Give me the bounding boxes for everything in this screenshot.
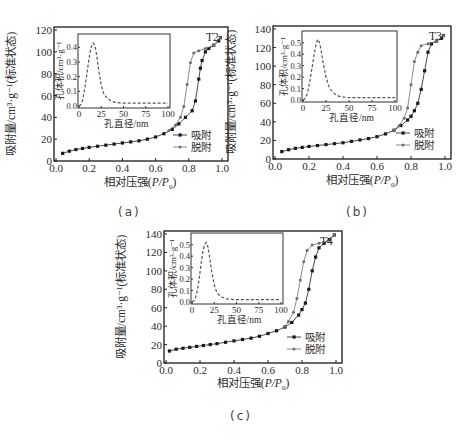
inset-y-tick: 0.3 [179, 263, 190, 273]
inset-y-tick: 0.4 [290, 49, 301, 59]
x-axis-label: 相对压强(P/P0) [326, 173, 399, 189]
y-axis-label: 吸附量/cm³·g⁻¹(标准状态) [4, 32, 18, 157]
inset-y-label: 孔体积/cm³·g⁻¹ [54, 42, 65, 100]
x-tick-label: 0.0 [268, 160, 282, 172]
isotherm-chart-t4: 0204060801001201400.00.20.40.60.81.0吸附量/… [110, 225, 360, 400]
inset-x-label: 孔直径/nm [329, 112, 374, 123]
x-tick-label: 1.0 [438, 160, 452, 172]
x-tick-label: 0.4 [227, 364, 241, 376]
x-tick-label: 0.8 [404, 160, 418, 172]
inset-x-tick: 25 [210, 305, 220, 315]
y-tick-label: 60 [41, 90, 53, 102]
y-tick-label: 20 [260, 134, 272, 146]
chart-panel-t4: 0204060801001201400.00.20.40.60.81.0吸附量/… [110, 225, 360, 400]
desorption-curve [394, 36, 443, 131]
inset-x-tick: 0 [301, 103, 306, 113]
inset-y-tick: 0.1 [66, 86, 77, 96]
inset-y-tick: 0.2 [290, 72, 301, 82]
legend-desorption: 脱附 [414, 139, 435, 151]
inset-y-tick: 0.3 [290, 61, 301, 71]
inset-x-tick: 100 [161, 109, 175, 119]
inset-x-tick: 75 [141, 109, 151, 119]
inset-y-tick: 0.0 [179, 297, 190, 307]
caption-b: (b) [346, 205, 369, 219]
y-axis-label: 吸附量/cm³·g⁻¹(标准状态) [114, 235, 128, 360]
x-tick-label: 0.2 [302, 160, 316, 172]
y-tick-label: 40 [260, 116, 272, 128]
x-tick-label: 0.0 [159, 364, 173, 376]
y-axis-label: 吸附量/cm³·g⁻¹(标准状态) [224, 30, 238, 155]
inset-y-tick: 0.4 [66, 42, 77, 52]
y-tick-label: 140 [255, 23, 272, 35]
y-tick-label: 80 [151, 283, 163, 295]
inset-x-tick: 75 [368, 103, 378, 113]
legend-adsorption: 吸附 [191, 129, 212, 141]
y-tick-label: 20 [41, 133, 53, 145]
desorption-curve [169, 38, 220, 131]
legend-desorption: 脱附 [305, 343, 326, 355]
chart-panel-t2: 0204060801001200.00.20.40.60.81.0吸附量/cm³… [0, 0, 235, 200]
inset-y-tick: 0.2 [66, 72, 77, 82]
y-tick-label: 80 [41, 68, 53, 80]
legend-adsorption: 吸附 [414, 127, 435, 139]
chart-panel-t3: 0204060801001201400.00.20.40.60.81.0吸附量/… [220, 0, 467, 200]
legend-desorption: 脱附 [191, 141, 212, 153]
x-tick-label: 0.8 [182, 162, 196, 174]
y-tick-label: 120 [255, 42, 272, 54]
inset-y-tick: 0.2 [179, 274, 190, 284]
x-tick-label: 0.2 [82, 162, 96, 174]
y-tick-label: 120 [36, 24, 53, 36]
x-tick-label: 0.6 [370, 160, 384, 172]
inset-x-tick: 50 [119, 109, 129, 119]
x-tick-label: 0.8 [295, 364, 309, 376]
inset-x-tick: 50 [232, 305, 242, 315]
y-tick-label: 100 [146, 265, 163, 277]
caption-a: (a) [118, 205, 141, 219]
x-tick-label: 0.2 [193, 364, 207, 376]
inset-x-tick: 100 [274, 305, 288, 315]
inset-x-tick: 100 [388, 103, 402, 113]
inset-y-tick: 0.5 [290, 38, 301, 48]
inset-y-tick: 0.1 [179, 286, 190, 296]
inset-y-label: 孔体积/cm³·g⁻¹ [278, 37, 289, 95]
inset-x-tick: 25 [322, 103, 332, 113]
inset-x-tick: 25 [97, 109, 107, 119]
inset-y-tick: 0.0 [66, 101, 77, 111]
y-tick-label: 80 [260, 79, 272, 91]
inset-y-label: 孔体积/cm³·g⁻¹ [167, 239, 178, 297]
inset-y-tick: 0.1 [290, 84, 301, 94]
x-tick-label: 0.6 [149, 162, 163, 174]
y-tick-label: 100 [255, 60, 272, 72]
y-tick-label: 100 [36, 46, 53, 58]
y-tick-label: 140 [146, 228, 163, 240]
x-axis-label: 相对压强(P/P0) [104, 175, 177, 191]
caption-c: (c) [230, 409, 252, 423]
inset-x-tick: 75 [254, 305, 264, 315]
x-tick-label: 0.6 [261, 364, 275, 376]
inset-x-label: 孔直径/nm [104, 118, 149, 129]
x-tick-label: 0.4 [116, 162, 130, 174]
inset-x-tick: 0 [77, 109, 82, 119]
y-tick-label: 60 [260, 97, 272, 109]
x-axis-label: 相对压强(P/P0) [217, 376, 290, 392]
inset-y-tick: 0.4 [179, 251, 190, 261]
inset-x-label: 孔直径/nm [217, 314, 262, 325]
x-tick-label: 0.4 [336, 160, 350, 172]
isotherm-chart-t2: 0204060801001200.00.20.40.60.81.0吸附量/cm³… [0, 0, 235, 200]
inset-x-tick: 50 [345, 103, 355, 113]
legend-adsorption: 吸附 [305, 331, 326, 343]
y-tick-label: 40 [41, 111, 53, 123]
inset-y-tick: 0.5 [179, 240, 190, 250]
y-tick-label: 60 [151, 302, 163, 314]
inset-x-tick: 0 [190, 305, 195, 315]
y-tick-label: 120 [146, 246, 163, 258]
isotherm-chart-t3: 0204060801001201400.00.20.40.60.81.0吸附量/… [220, 0, 467, 200]
inset-y-tick: 0.3 [66, 57, 77, 67]
y-tick-label: 40 [151, 320, 163, 332]
x-tick-label: 1.0 [329, 364, 343, 376]
x-tick-label: 0.0 [49, 162, 63, 174]
inset-y-tick: 0.0 [290, 95, 301, 105]
inset-frame [302, 31, 397, 102]
y-tick-label: 20 [151, 339, 163, 351]
